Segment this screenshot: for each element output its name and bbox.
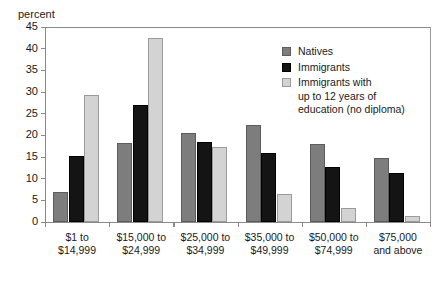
x-axis-category-label: $50,000 to $74,999 bbox=[302, 231, 366, 257]
bar-immigrants bbox=[389, 173, 404, 222]
bar-immigrants bbox=[325, 167, 340, 222]
y-tick-mark bbox=[41, 178, 45, 179]
x-axis-category-label: $35,000 to $49,999 bbox=[238, 231, 302, 257]
x-tick-mark bbox=[238, 222, 239, 227]
legend-swatch-immigrants bbox=[282, 63, 291, 72]
bar-group bbox=[53, 28, 99, 222]
bar-immigrants-with bbox=[277, 194, 292, 222]
plot-right-edge bbox=[430, 27, 431, 222]
y-tick-mark bbox=[41, 113, 45, 114]
bar-immigrants bbox=[133, 105, 148, 222]
x-tick-mark bbox=[45, 222, 46, 227]
y-axis-unit-label: percent bbox=[18, 8, 55, 20]
legend-label: Immigrants with up to 12 years of educat… bbox=[298, 76, 405, 117]
x-axis-category-label: $25,000 to $34,999 bbox=[173, 231, 237, 257]
bar-natives bbox=[374, 158, 389, 222]
bar-natives bbox=[310, 144, 325, 222]
y-tick-mark bbox=[41, 200, 45, 201]
bar-immigrants bbox=[69, 156, 84, 222]
y-tick-mark bbox=[41, 70, 45, 71]
x-tick-mark bbox=[173, 222, 174, 227]
y-tick-mark bbox=[41, 157, 45, 158]
bar-immigrants-with bbox=[148, 38, 163, 222]
legend: NativesImmigrantsImmigrants with up to 1… bbox=[282, 45, 405, 119]
legend-label: Immigrants bbox=[298, 61, 350, 75]
y-tick-label: 20 bbox=[26, 128, 38, 141]
y-tick-mark bbox=[41, 48, 45, 49]
bar-chart: percent 051015202530354045 $1 to $14,999… bbox=[0, 0, 442, 289]
y-tick-label: 45 bbox=[26, 20, 38, 33]
y-tick-mark bbox=[41, 135, 45, 136]
bar-group bbox=[181, 28, 227, 222]
bar-immigrants-with bbox=[341, 208, 356, 222]
x-tick-mark bbox=[109, 222, 110, 227]
legend-item: Natives bbox=[282, 45, 405, 59]
bar-natives bbox=[246, 125, 261, 222]
bar-natives bbox=[117, 143, 132, 222]
y-tick-label: 10 bbox=[26, 172, 38, 185]
y-tick-label: 5 bbox=[32, 193, 38, 206]
bar-natives bbox=[53, 192, 68, 222]
x-tick-mark bbox=[302, 222, 303, 227]
x-tick-mark bbox=[430, 222, 431, 227]
legend-swatch-lowed bbox=[282, 78, 291, 87]
y-tick-label: 35 bbox=[26, 63, 38, 76]
legend-item: Immigrants bbox=[282, 61, 405, 75]
bar-immigrants bbox=[197, 142, 212, 222]
bar-immigrants-with bbox=[212, 147, 227, 222]
y-tick-label: 25 bbox=[26, 107, 38, 120]
legend-swatch-natives bbox=[282, 47, 291, 56]
y-tick-label: 30 bbox=[26, 85, 38, 98]
y-tick-label: 0 bbox=[32, 215, 38, 228]
x-tick-mark bbox=[366, 222, 367, 227]
y-tick-mark bbox=[41, 92, 45, 93]
x-axis-category-label: $1 to $14,999 bbox=[45, 231, 109, 257]
x-axis-category-label: $75,000 and above bbox=[366, 231, 430, 257]
bar-immigrants bbox=[261, 153, 276, 222]
legend-item: Immigrants with up to 12 years of educat… bbox=[282, 76, 405, 117]
y-tick-label: 40 bbox=[26, 42, 38, 55]
legend-label: Natives bbox=[298, 45, 333, 59]
x-axis-category-label: $15,000 to $24,999 bbox=[109, 231, 173, 257]
bar-immigrants-with bbox=[84, 95, 99, 222]
bar-group bbox=[117, 28, 163, 222]
y-tick-mark bbox=[41, 27, 45, 28]
y-tick-label: 15 bbox=[26, 150, 38, 163]
bar-natives bbox=[181, 133, 196, 222]
